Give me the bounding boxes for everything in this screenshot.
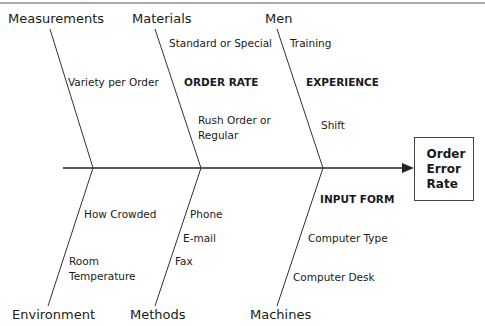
branch-measurements [50,29,93,168]
cause-temperature: Temperature [69,269,136,284]
cause-training: Training [290,36,331,51]
category-materials: Materials [132,11,192,26]
cause-shift: Shift [321,118,345,133]
category-machines: Machines [250,307,311,322]
cause-rush-order: Rush Order or [198,113,271,128]
arrow-head-icon [402,163,414,173]
cause-email: E-mail [183,231,216,246]
subheading-order-rate: ORDER RATE [184,75,258,90]
cause-room: Room [69,254,99,269]
cause-regular: Regular [198,128,238,143]
cause-how-crowded: How Crowded [84,207,156,222]
category-men: Men [265,11,292,26]
category-methods: Methods [130,307,186,322]
cause-computer-desk: Computer Desk [293,270,375,285]
branch-environment [48,168,93,306]
category-measurements: Measurements [8,11,104,26]
effect-box: Order Error Rate [414,137,474,201]
effect-label: Order Error Rate [423,147,466,192]
cause-fax: Fax [175,254,193,269]
cause-standard-or-special: Standard or Special [169,36,272,51]
cause-phone: Phone [190,207,223,222]
cause-computer-type: Computer Type [308,231,388,246]
category-environment: Environment [12,307,95,322]
subheading-input-form: INPUT FORM [320,192,394,207]
subheading-experience: EXPERIENCE [306,75,379,90]
cause-variety-per-order: Variety per Order [68,75,159,90]
